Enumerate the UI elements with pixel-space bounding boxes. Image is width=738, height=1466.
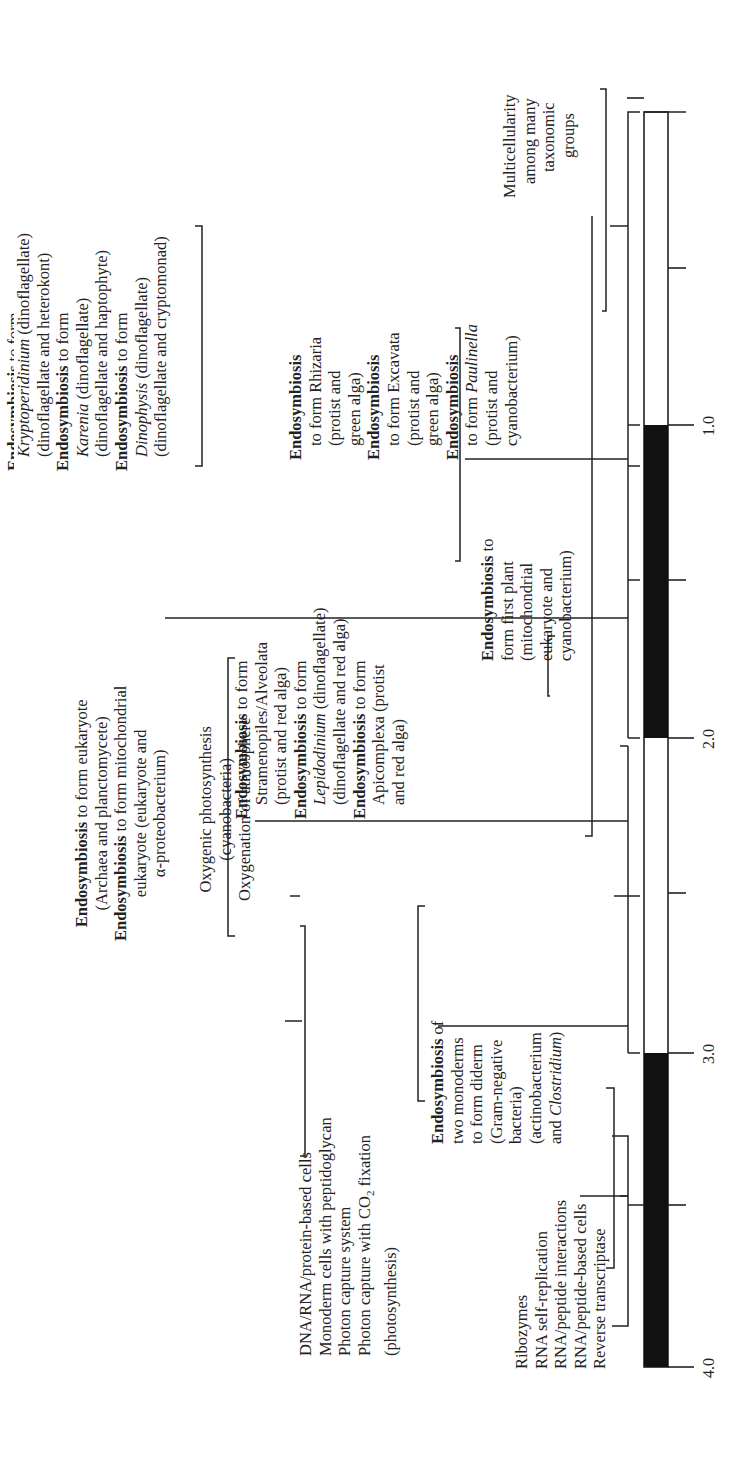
- event-line: Monoderm cells with peptidoglycan: [316, 1117, 336, 1370]
- event-line: Multicellularity: [500, 94, 520, 198]
- text: (dinoflagellate): [132, 277, 151, 383]
- text: to form: [112, 312, 131, 365]
- text: to form: [350, 660, 369, 713]
- event-first-plant: Endosymbiosis to form first plant (mitoc…: [478, 539, 576, 661]
- event-line: (mitochondrial: [517, 539, 537, 661]
- text: to form: [291, 660, 310, 713]
- event-line: Oxygenic photosynthesis: [196, 718, 216, 901]
- event-multicellularity: Multicellularity among many taxonomic gr…: [500, 94, 578, 198]
- dark-segment-2-1: [644, 425, 668, 738]
- event-line: form first plant: [498, 539, 518, 661]
- event-line: green alga): [345, 324, 365, 460]
- event-line: to form diderm: [467, 1021, 487, 1144]
- event-line: to form Paulinella: [462, 324, 482, 460]
- rotated-diagram-canvas: 4.0 3.0 2.0 1.0 Ribozymes RNA self-repli…: [0, 0, 738, 1466]
- tick-label-4: 4.0: [700, 1358, 718, 1378]
- bold-term: Endosymbiosis: [350, 714, 369, 819]
- bold-term: Endosymbiosis: [428, 1039, 447, 1144]
- event-line: (protist and: [325, 324, 345, 460]
- italic-taxon: Paulinella: [462, 324, 481, 393]
- event-line: Endosymbiosis to: [478, 539, 498, 661]
- event-stramenopiles: Endosymbiosis to form Stramenopiles/Alve…: [232, 608, 408, 820]
- event-line: Endosymbiosis to form eukaryote: [72, 686, 92, 941]
- event-line: cyanobacterium): [502, 324, 522, 460]
- bold-term: Endosymbiosis: [443, 355, 462, 460]
- event-line: cyanobacterium): [556, 539, 576, 661]
- italic-taxon: Dinophysis: [132, 383, 151, 457]
- text: to form: [232, 660, 251, 713]
- event-line: Endosymbiosis: [286, 324, 306, 460]
- italic-taxon: Karenia: [73, 404, 92, 457]
- subscript: 2: [364, 1191, 376, 1197]
- bold-term: Endosymbiosis: [4, 366, 14, 471]
- event-line: Photon capture system: [335, 1117, 355, 1370]
- event-line: RNA self-replication: [532, 1200, 552, 1369]
- event-line: (dinoflagellate and cryptomonad): [151, 233, 171, 471]
- text: to form mitochondrial: [111, 686, 130, 836]
- event-line: to form Rhizaria: [306, 324, 326, 460]
- event-line: and Clostridium): [546, 1021, 566, 1144]
- bold-term: Endosymbiosis: [232, 714, 251, 819]
- event-line: Kryptoperidinium (dinoflagellate): [14, 233, 34, 471]
- text: (dinoflagellate): [310, 608, 329, 714]
- event-line: Endosymbiosis to form mitochondrial: [111, 686, 131, 941]
- text: to form: [53, 312, 72, 365]
- event-line: (Archaea and planctomycete): [92, 686, 112, 941]
- event-line: Endosymbiosis: [364, 324, 384, 460]
- event-line: Ribozymes: [512, 1200, 532, 1369]
- event-line: (protist and red alga): [271, 608, 291, 820]
- bold-term: Endosymbiosis: [478, 556, 497, 661]
- text: and: [546, 1116, 565, 1144]
- event-line: Endosymbiosis to form: [350, 608, 370, 820]
- text: ): [546, 1032, 565, 1038]
- event-line: and red alga): [389, 608, 409, 820]
- event-line: among many: [520, 94, 540, 198]
- bold-term: Endosymbiosis: [286, 355, 305, 460]
- event-line: RNA/peptide-based cells: [571, 1200, 591, 1369]
- event-line: (dinoflagellate and heterokont): [34, 233, 54, 471]
- event-line: Endosymbiosis to form: [232, 608, 252, 820]
- event-line: Dinophysis (dinoflagellate): [132, 233, 152, 471]
- event-diderm: Endosymbiosis of two monoderms to form d…: [428, 1021, 565, 1144]
- event-line: (dinoflagellate and red alga): [330, 608, 350, 820]
- event-ribozymes: Ribozymes RNA self-replication RNA/pepti…: [512, 1200, 610, 1369]
- event-line: Endosymbiosis: [443, 324, 463, 460]
- bold-term: Endosymbiosis: [72, 822, 91, 927]
- event-line: Lepidodinium (dinoflagellate): [310, 608, 330, 820]
- text: (dinoflagellate): [73, 298, 92, 404]
- event-line: Karenia (dinoflagellate): [73, 233, 93, 471]
- bold-term: Endosymbiosis: [53, 366, 72, 471]
- event-line: eukaryote (eukaryote and: [131, 686, 151, 941]
- event-line: (dinoflagellate and haptophyte): [92, 233, 112, 471]
- event-line: Reverse transcriptase: [590, 1200, 610, 1369]
- tick-label-1: 1.0: [700, 416, 718, 436]
- tick-label-2: 2.0: [700, 729, 718, 749]
- event-dna-cells: DNA/RNA/protein-based cells Monoderm cel…: [296, 1117, 400, 1370]
- event-line: Endosymbiosis to form: [112, 233, 132, 471]
- text: (dinoflagellate): [14, 233, 33, 339]
- event-line: DNA/RNA/protein-based cells: [296, 1117, 316, 1370]
- event-line: RNA/peptide interactions: [551, 1200, 571, 1369]
- text: to form: [4, 312, 14, 365]
- text: to: [478, 539, 497, 556]
- event-eukaryote: Endosymbiosis to form eukaryote (Archaea…: [72, 686, 170, 941]
- event-line: (Gram-negative: [487, 1021, 507, 1144]
- event-line: Endosymbiosis of: [428, 1021, 448, 1144]
- event-dinoflagellates: Endosymbiosis to form Kryptoperidinium (…: [4, 233, 171, 471]
- event-line: (photosynthesis): [381, 1117, 401, 1370]
- event-line: groups: [559, 94, 579, 198]
- italic-taxon: Clostridium: [546, 1037, 565, 1116]
- dark-segment-4-3: [644, 1053, 668, 1367]
- event-line: bacteria): [506, 1021, 526, 1144]
- event-line: α-proteobacterium): [150, 686, 170, 941]
- bold-term: Endosymbiosis: [112, 366, 131, 471]
- event-line: Endosymbiosis to form: [53, 233, 73, 471]
- event-line: (protist and: [404, 324, 424, 460]
- bold-term: Endosymbiosis: [111, 836, 130, 941]
- event-line: (actinobacterium: [526, 1021, 546, 1144]
- text: to form eukaryote: [72, 699, 91, 821]
- event-line-co2: Photon capture with CO2 fixation: [355, 1117, 381, 1370]
- event-line: Stramenopiles/Alveolata: [252, 608, 272, 820]
- text: fixation: [355, 1135, 374, 1190]
- tick-label-3: 3.0: [700, 1044, 718, 1064]
